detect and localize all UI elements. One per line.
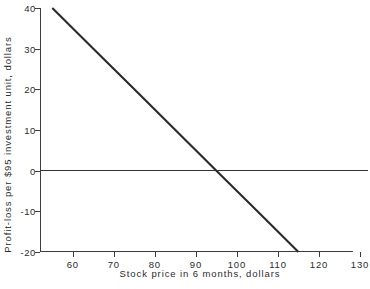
x-tick-mark	[114, 252, 115, 257]
x-tick-mark	[155, 252, 156, 257]
plot-area: 403020100-10-20 60708090100110120130	[40, 8, 360, 252]
y-tick-label: 30	[24, 43, 36, 54]
chart-figure: 403020100-10-20 60708090100110120130 Sto…	[0, 0, 370, 289]
y-tick-label: -20	[20, 247, 36, 258]
x-tick-mark	[73, 252, 74, 257]
data-series-layer	[40, 8, 360, 252]
x-tick-mark	[360, 252, 361, 257]
y-tick-label: -10	[20, 206, 36, 217]
y-tick-label: 40	[24, 3, 36, 14]
x-tick-mark	[237, 252, 238, 257]
y-tick-label: 0	[30, 165, 36, 176]
y-tick-label: 10	[24, 125, 36, 136]
series-profit-loss-line	[52, 8, 298, 252]
x-axis-label: Stock price in 6 months, dollars	[40, 268, 360, 279]
x-tick-mark	[319, 252, 320, 257]
x-tick-mark	[278, 252, 279, 257]
y-axis-label: Profit-loss per $95 investment unit, dol…	[0, 0, 16, 289]
x-tick-mark	[196, 252, 197, 257]
y-tick-label: 20	[24, 84, 36, 95]
